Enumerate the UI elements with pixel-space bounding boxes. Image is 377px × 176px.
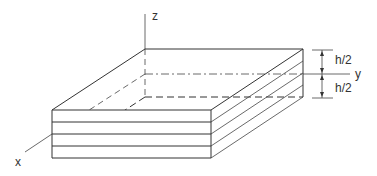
lower-half-thickness-label: h/2 bbox=[335, 81, 352, 95]
upper-half-thickness-label: h/2 bbox=[335, 53, 352, 67]
laminate-plate-diagram: z y x h/2 h/2 bbox=[0, 0, 377, 176]
z-axis-label: z bbox=[152, 9, 158, 23]
top-face bbox=[52, 49, 303, 110]
x-axis bbox=[25, 134, 52, 152]
right-side-layers bbox=[211, 61, 303, 158]
y-axis-label: y bbox=[355, 67, 361, 81]
front-face bbox=[52, 110, 211, 158]
x-axis-label: x bbox=[15, 155, 21, 169]
